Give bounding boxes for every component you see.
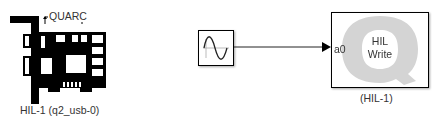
hil-write-block[interactable]: a0 HIL Write: [331, 12, 429, 88]
input-port-label-a0: a0: [334, 43, 346, 55]
hil-initialize-caption: HIL-1 (q2_usb-0): [20, 104, 99, 116]
arrowhead-icon: [322, 42, 331, 52]
hil-write-title-line2: Write: [360, 48, 400, 61]
hil-write-title-line1: HIL: [360, 35, 400, 48]
signal-line[interactable]: [234, 41, 334, 53]
sine-wave-block[interactable]: [198, 30, 234, 66]
sine-wave-icon: [199, 31, 233, 65]
hil-initialize-block[interactable]: QUARC: [8, 10, 112, 106]
quarc-brand-label: QUARC: [48, 10, 88, 22]
hil-write-caption: (HIL-1): [360, 92, 393, 104]
quarc-pci-card-icon: [8, 10, 112, 106]
